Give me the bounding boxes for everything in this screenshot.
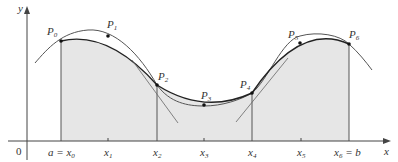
y-axis-arrow-icon <box>24 6 30 14</box>
y-axis-label: y <box>17 2 23 14</box>
point-label-p6: P6 <box>348 28 360 42</box>
point-label-p2: P2 <box>157 70 169 84</box>
point-label-p0: P0 <box>46 25 58 39</box>
tick-label-x0: a = x0 <box>48 146 75 160</box>
point-label-p5: P5 <box>287 28 299 42</box>
point-label-p1: P1 <box>106 18 117 32</box>
tick-label-x3: x3 <box>199 146 209 160</box>
x-axis-label: x <box>383 145 389 157</box>
origin-label: 0 <box>16 145 22 157</box>
tick-label-x4: x4 <box>247 146 257 160</box>
tick-label-x6: x6 = b <box>333 146 361 160</box>
x-axis-arrow-icon <box>383 138 391 144</box>
tick-label-x5: x5 <box>296 146 306 160</box>
tick-label-x1: x1 <box>103 146 112 160</box>
tick-label-x2: x2 <box>152 146 162 160</box>
simpsons-rule-figure: y x 0 a = x0 x1 x2 x3 x4 x5 x6 = b P0 P1… <box>0 0 398 162</box>
point-label-p3: P3 <box>200 89 212 103</box>
point-label-p4: P4 <box>239 78 251 92</box>
